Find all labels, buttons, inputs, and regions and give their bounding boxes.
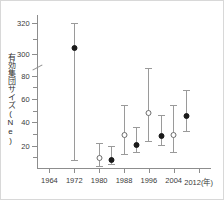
y-tick-label: 320 bbox=[17, 18, 30, 27]
error-bar bbox=[124, 105, 125, 154]
x-tick-label: 2004 bbox=[165, 176, 182, 185]
error-bar-cap-upper bbox=[71, 23, 78, 24]
error-bar bbox=[173, 105, 174, 152]
data-point bbox=[71, 15, 78, 169]
error-bar-cap-lower bbox=[183, 131, 190, 132]
y-tick-label: 300 bbox=[17, 50, 30, 59]
data-point bbox=[158, 15, 165, 169]
x-tick bbox=[49, 169, 50, 173]
open-circle-marker bbox=[121, 132, 127, 138]
error-bar bbox=[186, 90, 187, 131]
data-point bbox=[183, 15, 190, 169]
chart-figure: 有効集団サイズ(Ne) 20406080300320 1964197219801… bbox=[0, 0, 224, 200]
error-bar-cap-lower bbox=[145, 141, 152, 142]
error-bar-cap-lower bbox=[71, 160, 78, 161]
error-bar-cap-upper bbox=[96, 143, 103, 144]
y-tick-label: 20 bbox=[21, 141, 30, 150]
error-bar-cap-lower bbox=[96, 166, 103, 167]
open-circle-marker bbox=[96, 155, 102, 161]
error-bar-cap-upper bbox=[133, 127, 140, 128]
y-tick-label: 60 bbox=[21, 95, 30, 104]
error-bar-cap-upper bbox=[145, 68, 152, 69]
error-bar bbox=[161, 115, 162, 144]
filled-circle-marker bbox=[133, 142, 139, 148]
open-circle-marker bbox=[146, 110, 152, 116]
data-point bbox=[170, 15, 177, 169]
x-tick bbox=[99, 169, 100, 173]
y-tick-label: 80 bbox=[21, 71, 30, 80]
x-tick bbox=[149, 169, 150, 173]
error-bar bbox=[148, 68, 149, 141]
error-bar-cap-lower bbox=[133, 152, 140, 153]
data-series-layer bbox=[37, 15, 211, 169]
open-circle-marker bbox=[171, 132, 177, 138]
x-tick-label: 2012(年) bbox=[184, 176, 213, 187]
data-point bbox=[145, 15, 152, 169]
filled-circle-marker bbox=[158, 133, 164, 139]
plot-area: 20406080300320 1964197219801988199620042… bbox=[37, 15, 211, 169]
x-tick bbox=[174, 169, 175, 173]
x-tick-label: 1972 bbox=[66, 176, 83, 185]
error-bar-cap-upper bbox=[108, 146, 115, 147]
error-bar bbox=[74, 23, 75, 160]
error-bar-cap-lower bbox=[121, 154, 128, 155]
x-tick-label: 1996 bbox=[141, 176, 158, 185]
data-point bbox=[121, 15, 128, 169]
data-point bbox=[108, 15, 115, 169]
x-tick-label: 1988 bbox=[116, 176, 133, 185]
filled-circle-marker bbox=[183, 113, 189, 119]
error-bar-cap-upper bbox=[158, 115, 165, 116]
x-tick bbox=[124, 169, 125, 173]
y-tick-label: 40 bbox=[21, 118, 30, 127]
error-bar-cap-upper bbox=[183, 90, 190, 91]
x-tick bbox=[199, 169, 200, 173]
error-bar-cap-lower bbox=[108, 164, 115, 165]
error-bar-cap-upper bbox=[170, 105, 177, 106]
data-point bbox=[96, 15, 103, 169]
error-bar-cap-lower bbox=[170, 152, 177, 153]
error-bar-cap-upper bbox=[121, 105, 128, 106]
error-bar-cap-lower bbox=[158, 145, 165, 146]
filled-circle-marker bbox=[71, 45, 77, 51]
filled-circle-marker bbox=[109, 157, 115, 163]
x-tick-label: 1964 bbox=[41, 176, 58, 185]
data-point bbox=[133, 15, 140, 169]
x-tick bbox=[74, 169, 75, 173]
y-axis-title: 有効集団サイズ(Ne) bbox=[3, 53, 15, 145]
x-tick-label: 1980 bbox=[91, 176, 108, 185]
